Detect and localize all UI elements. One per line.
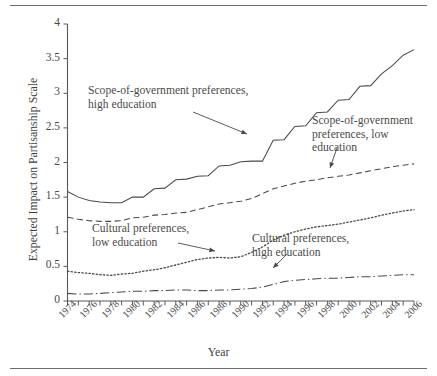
annotation-scope-government-low-education: Scope-of-government preferences, low edu… <box>312 114 424 155</box>
annotation-arrowhead-sg-high <box>241 130 247 134</box>
series-line <box>68 275 415 294</box>
annotation-cultural-high-education: Cultural preferences, high education <box>252 232 392 259</box>
figure-container: 00.511.522.533.54 1974197619781980198219… <box>0 0 437 376</box>
axes-group <box>64 24 415 306</box>
x-axis-title: Year <box>0 345 437 360</box>
y-axis-title: Expected Impact on Partisanship Scale <box>26 60 41 280</box>
y-axis-tick-label: 4 <box>28 16 60 28</box>
annotation-scope-government-high-education: Scope-of-government preferences, high ed… <box>88 84 303 111</box>
series-line <box>68 164 415 221</box>
y-axis-tick-label: 0 <box>28 293 60 305</box>
chart-plot-area <box>0 0 437 376</box>
annotation-arrowhead-sg-low <box>330 162 335 168</box>
annotation-leader-sg-high <box>193 112 247 134</box>
annotation-cultural-low-education: Cultural preferences, low education <box>92 222 242 249</box>
